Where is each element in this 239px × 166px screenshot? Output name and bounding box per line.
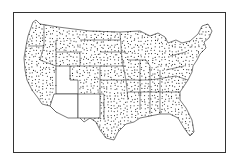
state-new-mexico (78, 94, 100, 118)
us-dot-map (0, 0, 239, 166)
state-arizona (50, 94, 78, 118)
